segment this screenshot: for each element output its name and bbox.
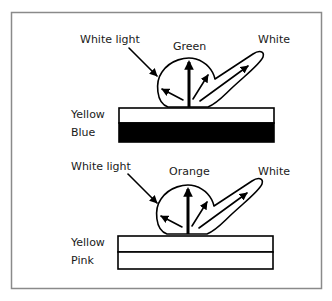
- scatter-arrow-right-icon: [192, 202, 207, 226]
- scatter-arrow-right-icon: [193, 75, 208, 99]
- specular-reflection-label: White: [258, 165, 290, 178]
- layer-bottom-rect: [118, 252, 273, 269]
- layer-top-label: Yellow: [70, 236, 105, 249]
- reflection-diagram: White light Green White Yellow Blue Whit…: [0, 0, 332, 301]
- scatter-arrow-left-icon: [162, 89, 183, 100]
- layer-bottom-label: Pink: [71, 254, 94, 267]
- incident-arrow-icon: [129, 48, 157, 76]
- panel-top: White light Green White Yellow Blue: [70, 33, 290, 142]
- panel-bottom: White light Orange White Yellow Pink: [70, 160, 290, 269]
- layer-top-label: Yellow: [70, 108, 105, 121]
- layer-bottom-label: Blue: [71, 126, 96, 139]
- diffuse-color-label: Orange: [169, 165, 210, 178]
- layer-top-rect: [119, 108, 274, 123]
- specular-reflection-label: White: [258, 33, 290, 46]
- incident-light-label: White light: [71, 160, 132, 173]
- incident-light-label: White light: [80, 33, 141, 46]
- layer-bottom-rect: [119, 123, 274, 142]
- layer-top-rect: [118, 236, 273, 252]
- scattering-lobe-shape: [157, 179, 263, 234]
- scattering-lobe-shape: [158, 52, 264, 107]
- incident-arrow-icon: [128, 174, 157, 203]
- scatter-arrow-left-icon: [161, 216, 182, 227]
- diffuse-color-label: Green: [173, 40, 206, 53]
